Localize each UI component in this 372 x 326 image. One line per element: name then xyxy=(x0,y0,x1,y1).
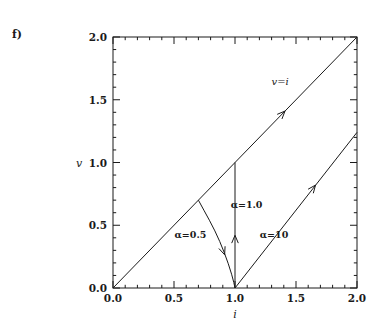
x-tick-label: 1.5 xyxy=(287,292,305,304)
annotation-alpha-0.5: α=0.5 xyxy=(175,229,207,240)
figure-root: f) 0.00.51.01.52.00.00.51.01.52.0ivv=iα=… xyxy=(0,0,372,326)
annotation-alpha-10: α=10 xyxy=(260,229,289,240)
annotation-alpha-1.0: α=1.0 xyxy=(231,199,263,210)
series-alpha-0.5 xyxy=(198,200,235,288)
y-tick-label: 0.5 xyxy=(89,219,107,231)
series-group xyxy=(113,37,357,288)
y-tick-label: 1.5 xyxy=(89,94,107,106)
x-tick-label: 2.0 xyxy=(348,292,366,304)
x-tick-label: 0.5 xyxy=(165,292,183,304)
y-tick-label: 2.0 xyxy=(89,31,107,43)
y-tick-label: 1.0 xyxy=(89,157,107,169)
chart-plot: 0.00.51.01.52.00.00.51.01.52.0ivv=iα=0.5… xyxy=(0,0,372,326)
y-tick-label: 0.0 xyxy=(89,282,107,294)
y-axis-title: v xyxy=(76,157,83,170)
annotation-v=i: v=i xyxy=(272,76,289,87)
x-tick-label: 1.0 xyxy=(226,292,244,304)
x-axis-title: i xyxy=(233,308,237,321)
